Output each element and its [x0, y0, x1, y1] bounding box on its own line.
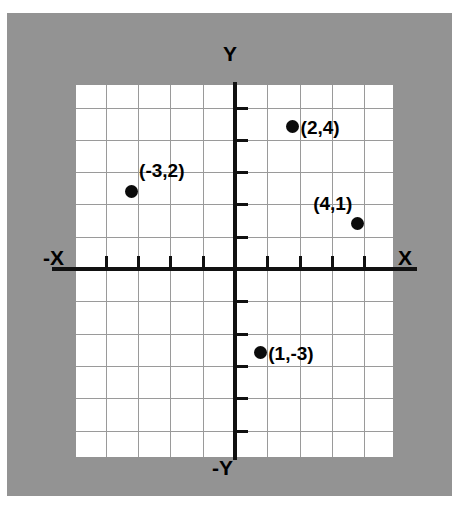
tick-y: [236, 236, 248, 239]
data-point-label: (1,-3): [268, 344, 313, 363]
axis-label-y-negative: -Y: [212, 457, 233, 478]
coordinate-plane-figure: (2,4)(-3,2)(4,1)(1,-3) Y -Y -X X: [0, 0, 464, 511]
tick-x: [202, 256, 205, 268]
axis-label-x-negative: -X: [43, 247, 64, 268]
data-point-label: (4,1): [313, 194, 352, 213]
plot-area: [76, 85, 393, 457]
tick-x: [137, 256, 140, 268]
tick-x: [299, 256, 302, 268]
tick-y: [236, 203, 248, 206]
tick-x: [105, 256, 108, 268]
tick-y: [236, 430, 248, 433]
tick-x: [266, 256, 269, 268]
figure-frame: (2,4)(-3,2)(4,1)(1,-3) Y -Y -X X: [7, 13, 452, 496]
data-point: [351, 217, 364, 230]
tick-y: [236, 333, 248, 336]
data-point-label: (-3,2): [139, 161, 184, 180]
tick-x: [331, 256, 334, 268]
data-point: [125, 185, 138, 198]
tick-x: [169, 256, 172, 268]
axis-label-x-positive: X: [398, 247, 412, 268]
axis-label-y-positive: Y: [223, 43, 237, 64]
tick-y: [236, 397, 248, 400]
tick-y: [236, 107, 248, 110]
data-point-label: (2,4): [301, 118, 340, 137]
tick-y: [236, 365, 248, 368]
tick-y: [236, 300, 248, 303]
tick-y: [236, 139, 248, 142]
tick-x: [363, 256, 366, 268]
tick-y: [236, 171, 248, 174]
